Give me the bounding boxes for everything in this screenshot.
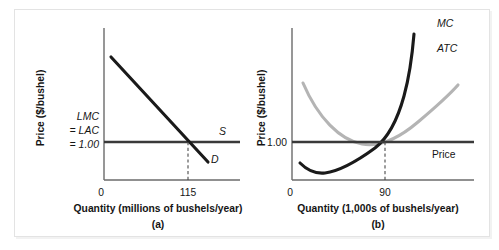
- panel-b-atc-label: ATC: [436, 42, 458, 54]
- panel-b-x-axis-title: Quantity (1,000s of bushels/year): [297, 203, 458, 214]
- panel-b-x-tick-90: 90: [379, 187, 391, 198]
- panel-b-caption: (b): [371, 219, 384, 230]
- panel-b-origin-tick: 0: [287, 187, 293, 198]
- figure-container: Price ($/bushel) LMC = LAC = 1.00 S D 0 …: [0, 0, 499, 250]
- panel-b-price-label: Price: [432, 149, 456, 160]
- panel-b-chart: Price ($/bushel) 1.00 MC ATC Price 0 90 …: [0, 0, 499, 250]
- panel-b-mc-label: MC: [437, 17, 454, 29]
- panel-b-y-tick-100: 1.00: [267, 137, 287, 148]
- panel-b-atc-curve: [303, 83, 458, 145]
- panel-b-y-axis-title: Price ($/bushel): [256, 70, 267, 147]
- panel-b-mc-curve: [300, 34, 414, 173]
